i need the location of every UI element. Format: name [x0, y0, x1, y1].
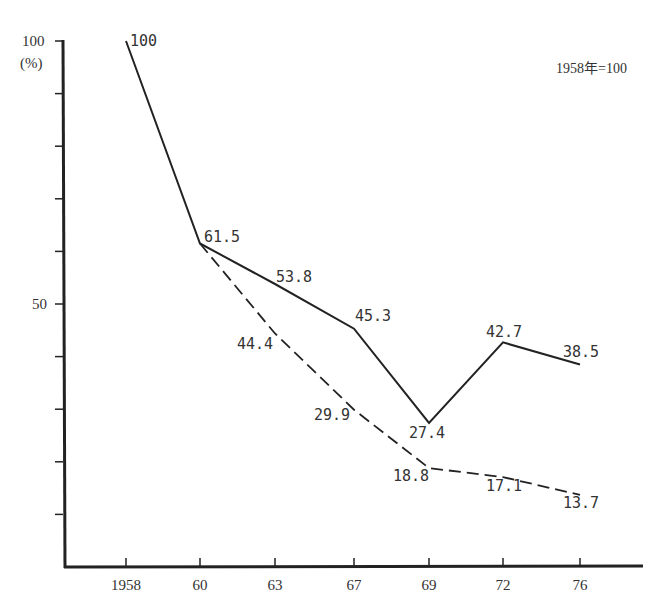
x-tick-label: 63 [268, 577, 283, 593]
label-dashed-76: 13.7 [563, 494, 599, 512]
label-dashed-63: 44.4 [237, 335, 273, 353]
series-dashed-line [200, 244, 580, 495]
y-axis [63, 40, 65, 568]
x-tick-label: 1958 [111, 577, 141, 593]
label-solid-63: 53.8 [276, 268, 312, 286]
label-dashed-67: 29.9 [314, 406, 350, 424]
series-solid-line [126, 41, 580, 423]
label-solid-60: 61.5 [204, 228, 240, 246]
x-tick-label: 67 [347, 577, 363, 593]
x-tick-label: 60 [193, 577, 208, 593]
x-tick-label: 72 [496, 577, 511, 593]
x-ticks: 1958606367697276 [111, 558, 588, 593]
x-tick-label: 76 [573, 577, 589, 593]
line-chart: 1958606367697276 100 (%) 50 1958年=100 10… [0, 0, 668, 616]
label-solid-1958: 100 [130, 32, 157, 50]
label-solid-76: 38.5 [563, 343, 599, 361]
label-solid-67: 45.3 [355, 307, 391, 325]
y-tick-label-50: 50 [32, 296, 47, 312]
label-dashed-69: 18.8 [393, 467, 429, 485]
base-year-note: 1958年=100 [556, 61, 627, 76]
y-tick-label-100: 100 [22, 33, 45, 49]
x-tick-label: 69 [422, 577, 437, 593]
label-dashed-72: 17.1 [486, 477, 522, 495]
y-axis-unit: (%) [20, 55, 43, 72]
x-axis [64, 566, 643, 567]
label-solid-72: 42.7 [486, 323, 522, 341]
label-solid-69: 27.4 [409, 424, 445, 442]
